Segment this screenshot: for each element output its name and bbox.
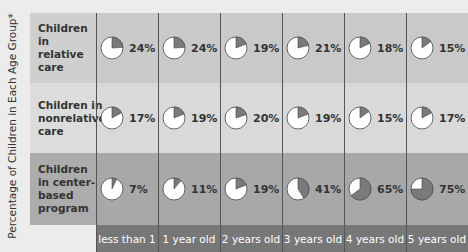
percent-value: 19% [253, 183, 279, 196]
divider [282, 13, 283, 252]
age-label: 1 year old [158, 225, 220, 252]
pie-cell: 20% [220, 83, 282, 153]
divider [344, 13, 345, 252]
pie-cell: 17% [406, 83, 468, 153]
pie-icon [162, 106, 186, 130]
pie-icon [286, 36, 310, 60]
age-label: 2 years old [220, 225, 282, 252]
percent-value: 19% [253, 42, 279, 55]
percent-value: 15% [439, 42, 465, 55]
pie-cell: 75% [406, 153, 468, 225]
percent-value: 7% [129, 183, 148, 196]
percent-value: 15% [377, 112, 403, 125]
row-label: Children in nonrelative care [30, 83, 96, 153]
age-label: less than 1 [96, 225, 158, 252]
pie-cell: 18% [344, 13, 406, 83]
percent-value: 19% [315, 112, 341, 125]
pie-icon [348, 36, 372, 60]
pie-cell: 17% [96, 83, 158, 153]
pie-icon [410, 106, 434, 130]
pie-icon [224, 177, 248, 201]
y-axis-label-text: Percentage of Children in Each Age Group… [6, 13, 18, 239]
pie-cell: 19% [220, 13, 282, 83]
pie-cell: 11% [158, 153, 220, 225]
row-label: Children in relative care [30, 13, 96, 83]
pie-icon [348, 106, 372, 130]
pie-cell: 21% [282, 13, 344, 83]
percent-value: 17% [129, 112, 155, 125]
divider [406, 13, 407, 252]
percent-value: 41% [315, 183, 341, 196]
pie-icon [162, 177, 186, 201]
percent-value: 24% [129, 42, 155, 55]
pie-icon [100, 36, 124, 60]
percent-value: 19% [191, 112, 217, 125]
row-label: Children in center-based program [30, 153, 96, 225]
percent-value: 20% [253, 112, 279, 125]
percent-value: 21% [315, 42, 341, 55]
pie-cell: 19% [220, 153, 282, 225]
divider [220, 13, 221, 252]
pie-cell: 65% [344, 153, 406, 225]
pie-cell: 19% [282, 83, 344, 153]
percent-value: 65% [377, 183, 403, 196]
pie-icon [410, 177, 434, 201]
percent-value: 18% [377, 42, 403, 55]
pie-icon [348, 177, 372, 201]
pie-icon [286, 177, 310, 201]
percent-value: 24% [191, 42, 217, 55]
percent-value: 75% [439, 183, 465, 196]
pie-cell: 7% [96, 153, 158, 225]
pie-icon [286, 106, 310, 130]
pie-cell: 19% [158, 83, 220, 153]
percent-value: 11% [191, 183, 217, 196]
age-label: 4 years old [344, 225, 406, 252]
pie-icon [100, 177, 124, 201]
pie-icon [100, 106, 124, 130]
y-axis-label: Percentage of Children in Each Age Group… [0, 0, 24, 252]
pie-icon [224, 36, 248, 60]
pie-icon [224, 106, 248, 130]
divider [158, 13, 159, 252]
pie-cell: 41% [282, 153, 344, 225]
pie-cell: 24% [96, 13, 158, 83]
pie-icon [410, 36, 434, 60]
percent-value: 17% [439, 112, 465, 125]
pie-cell: 15% [406, 13, 468, 83]
pie-cell: 15% [344, 83, 406, 153]
pie-icon [162, 36, 186, 60]
age-label: 5 years old [406, 225, 468, 252]
age-label: 3 years old [282, 225, 344, 252]
divider [96, 13, 97, 252]
pie-cell: 24% [158, 13, 220, 83]
